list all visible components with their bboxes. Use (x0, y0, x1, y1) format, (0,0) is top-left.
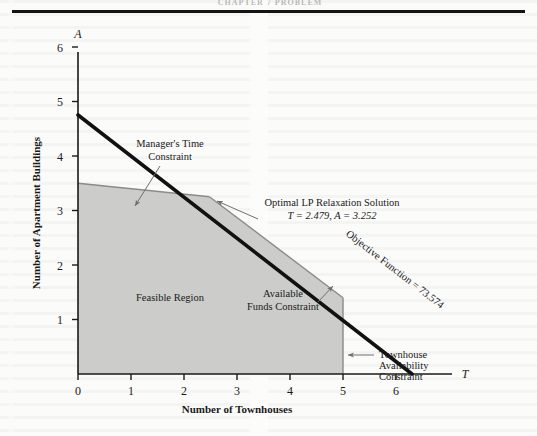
x-tick-label-5: 5 (340, 384, 346, 398)
horizontal-rule (12, 10, 525, 13)
objective-function-label: Objective Function = 73.574 (344, 228, 447, 311)
optimal-solution-label-line2: T = 2.479, A = 3.252 (288, 210, 378, 221)
y-axis-title: Number of Apartment Buildings (30, 136, 42, 289)
y-tick-label-1: 1 (57, 313, 63, 327)
feasible-region-label: Feasible Region (136, 292, 205, 303)
x-tick-label-6: 6 (393, 384, 399, 398)
available-funds-label-line2: Funds Constraint (247, 301, 319, 312)
townhouse-availability-label-line3: Constraint (379, 371, 423, 382)
managers-time-label-line2: Constraint (148, 151, 192, 162)
figure-svg: 6 5 4 3 2 1 0 1 2 3 4 5 6 A T Number of … (0, 14, 537, 436)
managers-time-label-line1: Manager's Time (136, 138, 204, 149)
x-tick-label-0: 0 (75, 384, 81, 398)
y-tick-label-6: 6 (57, 41, 63, 55)
townhouse-availability-label-line1: Townhouse (379, 349, 428, 360)
x-tick-label-3: 3 (234, 384, 240, 398)
y-tick-label-3: 3 (57, 204, 63, 218)
y-tick-label-4: 4 (57, 150, 63, 164)
y-axis-variable-label: A (73, 27, 82, 41)
available-funds-label-line1: Available (263, 288, 303, 299)
townhouse-availability-label-line2: Availability (379, 360, 429, 371)
lp-relaxation-figure: 6 5 4 3 2 1 0 1 2 3 4 5 6 A T Number of … (0, 14, 537, 436)
x-tick-label-2: 2 (181, 384, 187, 398)
x-tick-label-1: 1 (128, 384, 134, 398)
y-tick-label-2: 2 (57, 259, 63, 273)
x-tick-label-4: 4 (287, 384, 293, 398)
optimal-solution-label-line1: Optimal LP Relaxation Solution (264, 197, 400, 208)
x-axis-title: Number of Townhouses (182, 403, 293, 415)
y-tick-label-5: 5 (57, 95, 63, 109)
running-head: CHAPTER 7 PROBLEM (150, 0, 390, 7)
x-axis-variable-label: T (462, 367, 470, 381)
book-page: CHAPTER 7 PROBLEM (0, 0, 537, 436)
